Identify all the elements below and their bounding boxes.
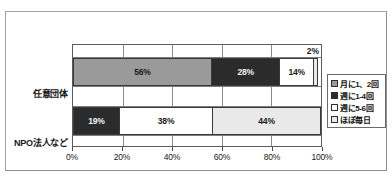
x-tick-label: 60% [214,152,230,162]
x-tick [322,147,323,151]
category-label-voluntary-group: 任意団体 [6,87,68,100]
bar-segment-label: 19% [88,116,104,126]
bar-row[interactable]: 19% 38% 44% [73,107,321,135]
x-tick-label: 80% [264,152,280,162]
legend-item[interactable]: 週に5-6回 [330,101,383,113]
bar-segment-label: 28% [237,67,253,77]
legend-item[interactable]: 週に1-4回 [330,89,383,101]
x-tick [122,147,123,151]
row-separator-mid-upper [73,86,321,87]
legend-swatch-icon [331,104,338,111]
plot-area: 2% 56% 28% 14% 19% 38% 44 [72,44,322,147]
x-tick [272,147,273,151]
category-label-npo-corporation: NPO法人など [6,136,68,149]
category-axis: 任意団体 NPO法人など [6,44,68,147]
chart-frame: 任意団体 NPO法人など 2% 56% 28% 14% [5,11,387,171]
bar-segment-label: 14% [288,67,304,77]
legend-label: 月に1、2回 [340,78,379,89]
x-tick [72,147,73,151]
bar-row[interactable]: 56% 28% 14% [73,58,321,86]
x-tick-label: 20% [114,152,130,162]
bar-segment[interactable]: 28% [211,58,280,86]
data-label-annotation-2pct: 2% [307,46,319,56]
x-tick-label: 40% [164,152,180,162]
bar-segment-label: 56% [134,67,150,77]
legend-label: ほぼ毎日 [340,114,370,125]
x-tick-label: 0% [66,152,78,162]
bar-segment[interactable]: 56% [73,58,212,86]
x-tick [172,147,173,151]
legend-label: 週に5-6回 [340,102,373,113]
bar-segment-label: 38% [158,116,174,126]
legend-label: 週に1-4回 [340,90,373,101]
bar-segment-label: 44% [258,116,274,126]
bar-segment[interactable]: 19% [73,107,120,135]
x-tick [222,147,223,151]
bar-segment[interactable] [313,58,318,86]
bar-segment[interactable]: 14% [279,58,314,86]
legend-item[interactable]: 月に1、2回 [330,77,383,89]
legend-swatch-icon [331,80,338,87]
legend-item[interactable]: ほぼ毎日 [330,113,383,125]
row-separator-bottom [73,135,321,136]
x-axis: 0% 20% 40% 60% 80% 100% [72,147,322,171]
legend-swatch-icon [331,92,338,99]
bar-segment[interactable]: 38% [119,107,213,135]
bar-segment[interactable]: 44% [212,107,321,135]
legend: 月に1、2回 週に1-4回 週に5-6回 ほぼ毎日 [327,74,386,128]
legend-swatch-icon [331,116,338,123]
x-tick-label: 100% [312,152,333,162]
